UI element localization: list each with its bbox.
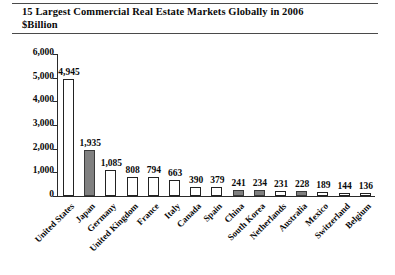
- bar-value-label: 663: [168, 168, 182, 179]
- bar-value-label: 241: [231, 178, 245, 189]
- y-tick-label: 2,000: [33, 142, 54, 152]
- y-tick-label: 5,000: [33, 71, 54, 81]
- y-tick-label: 4,000: [33, 94, 54, 104]
- bar[interactable]: [190, 187, 201, 196]
- bar[interactable]: [211, 187, 222, 196]
- y-tick-mark: [53, 78, 57, 79]
- bar[interactable]: [148, 177, 159, 196]
- bar[interactable]: [127, 177, 138, 196]
- bar[interactable]: [360, 193, 371, 196]
- bar-value-label: 808: [125, 165, 139, 176]
- bar-value-label: 794: [147, 165, 161, 176]
- bar[interactable]: [63, 79, 74, 196]
- bar[interactable]: [254, 190, 265, 196]
- y-tick-mark: [53, 149, 57, 150]
- plot-area: 01,0002,0003,0004,0005,0006,000 4,9451,9…: [0, 0, 395, 275]
- bar[interactable]: [169, 180, 180, 196]
- bar[interactable]: [105, 170, 116, 196]
- bar-value-label: 189: [316, 180, 330, 191]
- y-tick-label: 3,000: [33, 118, 54, 128]
- bar[interactable]: [84, 150, 95, 196]
- y-tick-mark: [53, 196, 57, 197]
- y-tick-mark: [53, 54, 57, 55]
- bar[interactable]: [339, 193, 350, 196]
- bar-value-label: 379: [210, 175, 224, 186]
- bar-value-label: 144: [337, 181, 351, 192]
- bar-value-label: 1,935: [80, 138, 101, 149]
- bar[interactable]: [233, 190, 244, 196]
- bar[interactable]: [275, 191, 286, 196]
- figure: 15 Largest Commercial Real Estate Market…: [0, 0, 395, 275]
- x-axis-line: [57, 196, 375, 197]
- y-tick-label: 1,000: [33, 165, 54, 175]
- bar[interactable]: [296, 191, 307, 196]
- bar[interactable]: [317, 192, 328, 196]
- bar-value-label: 390: [189, 175, 203, 186]
- y-tick-mark: [53, 125, 57, 126]
- y-tick-mark: [53, 172, 57, 173]
- y-tick-mark: [53, 101, 57, 102]
- bar-value-label: 4,945: [58, 67, 79, 78]
- y-tick-label: 0: [49, 189, 54, 199]
- bar-value-label: 1,085: [101, 158, 122, 169]
- bar-value-label: 234: [253, 178, 267, 189]
- bar-value-label: 136: [359, 181, 373, 192]
- bar-value-label: 228: [295, 179, 309, 190]
- y-tick-label: 6,000: [33, 47, 54, 57]
- bar-value-label: 231: [274, 179, 288, 190]
